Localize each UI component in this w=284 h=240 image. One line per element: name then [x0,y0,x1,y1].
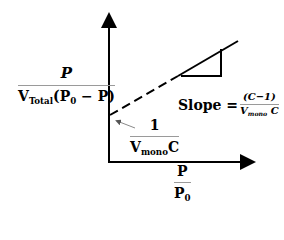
x-axis-label: P P0 [174,164,191,202]
slope-fraction: (C−1) Vmono C [240,92,279,117]
y-axis-label: P VTotal(P0 − P) [18,66,115,105]
intercept-label: 1 VmonoC [130,118,179,156]
slope-denominator: Vmono C [240,106,279,117]
fraction-bar [18,85,115,86]
intercept-numerator: 1 [150,118,160,132]
x-label-numerator: P [177,164,188,178]
slope-prefix: Slope = [178,97,238,113]
slope-label: Slope = (C−1) Vmono C [178,92,279,117]
x-label-denominator: P0 [174,186,191,202]
y-label-numerator: P [61,66,72,81]
fraction-bar [130,136,179,137]
extrapolated-dashed-line [110,76,178,115]
data-line [178,41,238,76]
y-label-denominator: VTotal(P0 − P) [18,89,115,105]
fraction-bar [174,182,191,183]
slope-numerator: (C−1) [243,92,276,102]
intercept-denominator: VmonoC [130,140,179,156]
